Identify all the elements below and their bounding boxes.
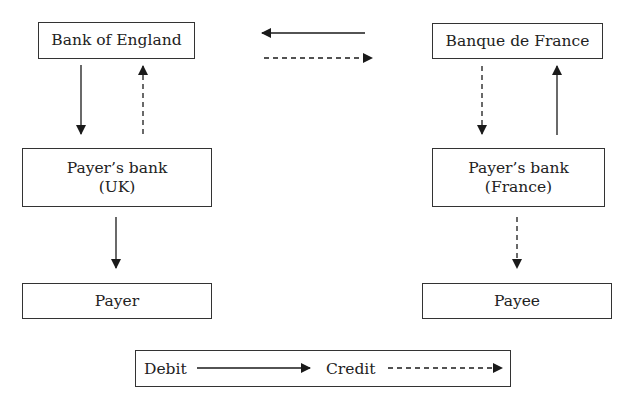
node-label: Bank of England [51,31,181,50]
node-payers-bank-uk: Payer’s bank (UK) [22,148,212,207]
node-label: Payer [95,292,139,311]
node-bank-of-england: Bank of England [38,22,195,59]
node-payee: Payee [422,283,612,319]
node-banque-de-france: Banque de France [432,23,603,59]
node-label: Banque de France [446,32,590,51]
node-payers-bank-france: Payer’s bank (France) [432,148,605,207]
legend-debit-label: Debit [144,360,187,378]
node-label-line2: (UK) [99,178,136,197]
node-payer: Payer [22,283,212,319]
node-label-line1: Payer’s bank [67,159,168,178]
node-label-line1: Payer’s bank [468,159,569,178]
node-label: Payee [494,292,540,311]
legend-box: Debit Credit [135,350,511,387]
node-label-line2: (France) [485,178,552,197]
legend-credit-label: Credit [326,360,376,378]
